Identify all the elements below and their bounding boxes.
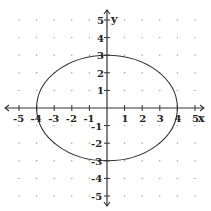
coordinate-plane: -5-4-3-2-11234554321-1-2-3-4-5xy <box>0 0 211 211</box>
grid-dot <box>124 19 125 20</box>
grid-dot <box>89 90 90 91</box>
grid-dot <box>159 125 160 126</box>
grid-dot <box>142 178 143 179</box>
x-tick-label: -2 <box>66 113 77 124</box>
grid-dot <box>124 55 125 56</box>
y-tick-label: -5 <box>91 191 102 202</box>
grid-dot <box>142 125 143 126</box>
x-axis-label: x <box>198 112 205 125</box>
grid-dot <box>177 90 178 91</box>
grid-dot <box>194 72 195 73</box>
grid-dot <box>18 90 19 91</box>
x-tick-label: -5 <box>13 113 24 124</box>
grid-dot <box>36 55 37 56</box>
grid-dot <box>177 19 178 20</box>
grid-dot <box>71 90 72 91</box>
grid-dot <box>54 55 55 56</box>
grid-dot <box>18 125 19 126</box>
grid-dot <box>124 125 125 126</box>
grid-dot <box>89 72 90 73</box>
grid-dot <box>71 195 72 196</box>
grid-dot <box>159 178 160 179</box>
grid-dot <box>54 90 55 91</box>
grid-dot <box>89 37 90 38</box>
x-tick-label: 1 <box>122 113 129 124</box>
grid-dot <box>89 55 90 56</box>
grid-dot <box>124 72 125 73</box>
grid-dot <box>18 160 19 161</box>
grid-dot <box>177 178 178 179</box>
grid-dot <box>177 125 178 126</box>
y-axis-label: y <box>110 13 118 26</box>
grid-dot <box>194 143 195 144</box>
grid-dot <box>71 37 72 38</box>
grid-dot <box>18 72 19 73</box>
grid-dot <box>142 90 143 91</box>
x-tick-label: 4 <box>174 113 181 124</box>
grid-dot <box>36 143 37 144</box>
grid-dot <box>194 19 195 20</box>
grid-dot <box>177 160 178 161</box>
grid-dot <box>18 19 19 20</box>
grid-dot <box>89 195 90 196</box>
grid-dot <box>177 55 178 56</box>
grid-dot <box>159 90 160 91</box>
grid-dot <box>71 72 72 73</box>
grid-dot <box>177 72 178 73</box>
grid-dot <box>54 160 55 161</box>
grid-dot <box>194 195 195 196</box>
grid-dot <box>89 143 90 144</box>
grid-dot <box>71 160 72 161</box>
grid-dot <box>142 160 143 161</box>
grid-dot <box>124 143 125 144</box>
grid-dot <box>194 125 195 126</box>
grid-dot <box>71 178 72 179</box>
grid-dot <box>18 55 19 56</box>
grid-dot <box>142 72 143 73</box>
grid-dot <box>36 178 37 179</box>
grid-dot <box>159 37 160 38</box>
y-tick-label: -2 <box>91 138 102 149</box>
grid-dot <box>159 160 160 161</box>
grid-dot <box>142 55 143 56</box>
grid-dot <box>124 37 125 38</box>
grid-dot <box>54 125 55 126</box>
grid-dot <box>89 125 90 126</box>
x-tick-label: -4 <box>31 113 42 124</box>
grid-dot <box>142 143 143 144</box>
grid-dot <box>36 19 37 20</box>
y-tick-label: -4 <box>91 173 102 184</box>
grid-dot <box>124 160 125 161</box>
grid-dot <box>36 160 37 161</box>
grid-dot <box>18 195 19 196</box>
x-tick-label: 3 <box>157 113 164 124</box>
grid-dot <box>194 37 195 38</box>
x-tick-label: -3 <box>48 113 59 124</box>
grid-dot <box>194 178 195 179</box>
grid-dot <box>54 19 55 20</box>
y-tick-label: 4 <box>97 33 104 44</box>
grid-dot <box>142 195 143 196</box>
y-tick-label: 2 <box>97 68 104 79</box>
grid-dot <box>71 143 72 144</box>
grid-dot <box>177 195 178 196</box>
grid-dot <box>194 160 195 161</box>
grid-dot <box>36 195 37 196</box>
y-tick-label: 3 <box>97 50 104 61</box>
grid-dot <box>159 19 160 20</box>
y-tick-label: 1 <box>97 85 104 96</box>
grid-dot <box>159 195 160 196</box>
grid-dot <box>177 37 178 38</box>
grid-dot <box>54 195 55 196</box>
grid-dot <box>142 37 143 38</box>
grid-dot <box>89 19 90 20</box>
grid-dot <box>124 178 125 179</box>
grid-dot <box>124 195 125 196</box>
grid-dot <box>36 90 37 91</box>
grid-dot <box>194 55 195 56</box>
grid-dot <box>142 19 143 20</box>
grid-dot <box>177 143 178 144</box>
grid-dot <box>36 72 37 73</box>
x-tick-label: 2 <box>139 113 146 124</box>
grid-dot <box>194 90 195 91</box>
